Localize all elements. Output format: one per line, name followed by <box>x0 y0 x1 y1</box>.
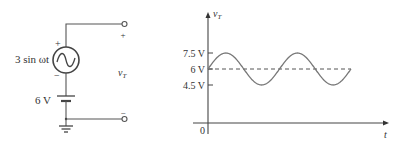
source-plus-sign: + <box>55 38 61 49</box>
circuit: + − 3 sin ωt 6 V + − vT <box>15 22 127 133</box>
origin-label: 0 <box>200 125 205 136</box>
waveform-chart: vT t 0 7.5 V6 V4.5 V <box>183 8 389 140</box>
x-axis-arrow-icon <box>383 121 389 126</box>
y-tick-label: 6 V <box>190 64 205 75</box>
y-axis-arrow-icon <box>206 12 211 18</box>
battery-label: 6 V <box>35 94 51 106</box>
y-tick-label: 7.5 V <box>183 48 206 59</box>
positive-terminal <box>122 22 127 27</box>
bottom-wire <box>66 101 122 119</box>
x-axis-label: t <box>384 129 387 140</box>
diagram-canvas: + − 3 sin ωt 6 V + − vT vT t 0 7.5 V6 V4… <box>0 0 399 151</box>
terminal-minus-sign: − <box>121 108 126 118</box>
y-axis-label: vT <box>213 8 222 21</box>
source-label: 3 sin ωt <box>15 53 49 65</box>
terminal-plus-sign: + <box>121 30 126 40</box>
source-minus-sign: − <box>54 70 60 81</box>
top-wire <box>66 24 122 47</box>
output-voltage-label: vT <box>118 67 127 80</box>
y-tick-label: 4.5 V <box>183 80 206 91</box>
ground-icon <box>59 126 73 132</box>
